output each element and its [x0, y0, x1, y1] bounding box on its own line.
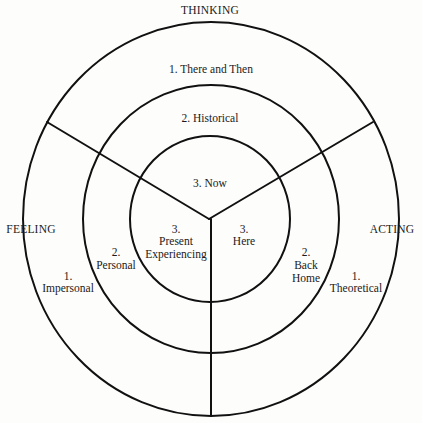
divider-thinking-acting	[209, 122, 373, 219]
svg-text:Impersonal: Impersonal	[42, 282, 94, 295]
svg-text:Here: Here	[233, 235, 255, 247]
axis-label-acting: ACTING	[370, 223, 415, 235]
svg-text:Theoretical: Theoretical	[330, 282, 382, 294]
svg-text:2.: 2.	[112, 246, 121, 258]
svg-text:Experiencing: Experiencing	[145, 248, 207, 261]
svg-text:3.: 3.	[172, 223, 181, 235]
thinking-ring1-label: 1. There and Then	[169, 63, 253, 75]
svg-text:Home: Home	[292, 272, 320, 284]
svg-text:3.: 3.	[240, 223, 249, 235]
concentric-sector-diagram: THINKING FEELING ACTING 1. There and The…	[0, 0, 422, 423]
divider-thinking-feeling	[47, 122, 209, 219]
svg-text:Present: Present	[159, 235, 194, 247]
acting-ring2-label: 2. Back Home	[292, 246, 320, 284]
feeling-ring1-label: 1. Impersonal	[42, 270, 94, 295]
thinking-ring2-label: 2. Historical	[182, 112, 239, 124]
svg-text:1.: 1.	[64, 270, 73, 282]
svg-text:Back: Back	[294, 259, 318, 271]
svg-text:Personal: Personal	[96, 259, 136, 271]
feeling-ring3-label: 3. Present Experiencing	[145, 223, 207, 261]
axis-label-feeling: FEELING	[6, 223, 55, 235]
svg-text:2.: 2.	[302, 246, 311, 258]
thinking-ring3-label: 3. Now	[193, 177, 228, 189]
axis-label-thinking: THINKING	[181, 4, 239, 16]
svg-text:1.: 1.	[352, 270, 361, 282]
acting-ring3-label: 3. Here	[233, 223, 255, 247]
acting-ring1-label: 1. Theoretical	[330, 270, 382, 294]
feeling-ring2-label: 2. Personal	[96, 246, 136, 271]
